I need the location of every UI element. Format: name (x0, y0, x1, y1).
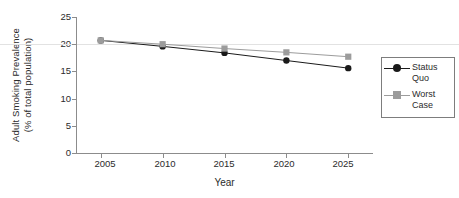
x-axis-title: Year (76, 177, 373, 188)
legend-label-status-quo: Status Quo (412, 62, 456, 84)
legend-marker-circle-icon (382, 63, 412, 75)
legend-item-worst-case: Worst Case (382, 89, 456, 113)
legend-label-line-2: Quo (412, 73, 456, 84)
legend-label-worst-case: Worst Case (412, 89, 456, 111)
y-axis-title: Adult Smoking Prevalence (% of total pop… (0, 0, 44, 170)
y-axis-title-line-2: (% of total population) (22, 28, 34, 142)
x-tick-label: 2025 (323, 158, 363, 169)
smoking-prevalence-line-chart: Adult Smoking Prevalence (% of total pop… (0, 0, 459, 198)
legend-item-status-quo: Status Quo (382, 62, 456, 86)
chart-legend: Status Quo Worst Case (381, 57, 455, 118)
legend-label-line-1: Worst (412, 89, 456, 100)
data-point-marker (221, 45, 227, 51)
y-axis-tick-labels: 25 20 15 10 5 0 (45, 0, 71, 198)
data-point-marker (283, 49, 289, 55)
plot-area (76, 17, 373, 153)
legend-marker-square-icon (382, 90, 412, 102)
y-axis-title-line-1: Adult Smoking Prevalence (10, 28, 22, 142)
data-point-marker (98, 37, 104, 43)
data-point-marker (345, 54, 351, 60)
y-tick-label: 0 (45, 148, 71, 158)
data-point-marker (345, 65, 351, 71)
x-tick-label: 2005 (85, 158, 125, 169)
legend-label-line-1: Status (412, 62, 456, 73)
y-tick-label: 15 (45, 66, 71, 76)
y-tick-label: 5 (45, 121, 71, 131)
y-tick-mark (72, 153, 76, 154)
x-tick-label: 2015 (204, 158, 244, 169)
x-tick-label: 2020 (264, 158, 304, 169)
legend-label-line-2: Case (412, 100, 456, 111)
data-point-marker (283, 57, 289, 63)
y-tick-label: 10 (45, 94, 71, 104)
data-point-marker (160, 41, 166, 47)
y-tick-label: 25 (45, 12, 71, 22)
series-plot (76, 17, 373, 153)
x-tick-label: 2010 (145, 158, 185, 169)
